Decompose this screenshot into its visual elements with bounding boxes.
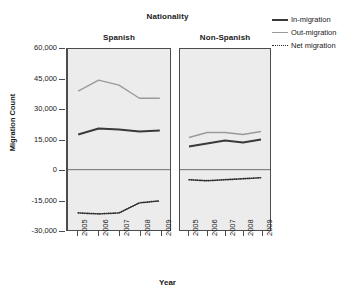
x-axis-title: Year [60,278,275,287]
x-axis-tick-label: 2008 [143,219,152,236]
y-axis-tick-label: 45,000 [0,74,57,83]
y-axis-tick [59,140,65,141]
x-axis-tick-label: 2006 [210,219,219,236]
y-axis-tick-label: -30,000 [0,226,57,235]
chart-title: Nationality [60,12,275,21]
x-axis-tick-label: 2005 [80,219,89,236]
x-axis-tick [140,231,141,236]
x-axis-tick [161,231,162,236]
x-axis-tick [262,231,263,236]
x-axis-tick-label: 2009 [164,219,173,236]
series-line-net-migration [189,178,261,181]
series-line-in-migration [78,128,160,134]
legend-item[interactable]: In-migration [272,14,360,25]
x-axis-tick [119,231,120,236]
y-axis-tick [59,109,65,110]
x-axis-tick-label: 2008 [246,219,255,236]
series-line-out-migration [78,80,160,98]
plot-area-non-spanish [180,49,270,230]
x-axis-tick-label: 2005 [191,219,200,236]
legend-item[interactable]: Out-migration [272,27,360,38]
migration-line-chart: Nationality Spanish Non-Spanish Migratio… [0,0,360,301]
legend-item-label: Net migration [291,41,336,50]
series-line-net-migration [78,201,160,214]
chart-legend: In-migrationOut-migrationNet migration [272,14,360,53]
x-axis-tick-label: 2007 [228,219,237,236]
x-axis-tick [243,231,244,236]
x-axis-tick [225,231,226,236]
dotted-line-swatch-icon [272,41,288,50]
y-axis-title: Migration Count [8,87,17,159]
plot-panel-non-spanish [179,48,271,231]
y-axis-tick [59,79,65,80]
x-axis-tick-label: 2009 [265,219,274,236]
x-axis-tick [207,231,208,236]
y-axis-tick [59,170,65,171]
x-axis-tick-label: 2006 [101,219,110,236]
plot-panel-spanish [67,48,171,231]
line-swatch-icon [272,15,288,24]
y-axis-tick-label: -15,000 [0,196,57,205]
legend-item-label: Out-migration [291,28,336,37]
series-line-in-migration [189,140,261,147]
y-axis-tick-label: 60,000 [0,43,57,52]
y-axis-tick-label: 15,000 [0,135,57,144]
x-axis-tick [188,231,189,236]
y-axis-tick [59,231,65,232]
x-axis-tick [98,231,99,236]
line-swatch-icon [272,28,288,37]
y-axis-tick-label: 0 [0,165,57,174]
x-axis-tick-label: 2007 [122,219,131,236]
y-axis-tick [59,48,65,49]
series-line-out-migration [189,131,261,137]
legend-item[interactable]: Net migration [272,40,360,51]
x-axis-tick [77,231,78,236]
y-axis-tick-label: 30,000 [0,104,57,113]
panel-title-non-spanish: Non-Spanish [179,33,271,42]
panel-title-spanish: Spanish [67,33,171,42]
plot-area-spanish [68,49,170,230]
legend-item-label: In-migration [291,15,331,24]
y-axis-tick [59,201,65,202]
